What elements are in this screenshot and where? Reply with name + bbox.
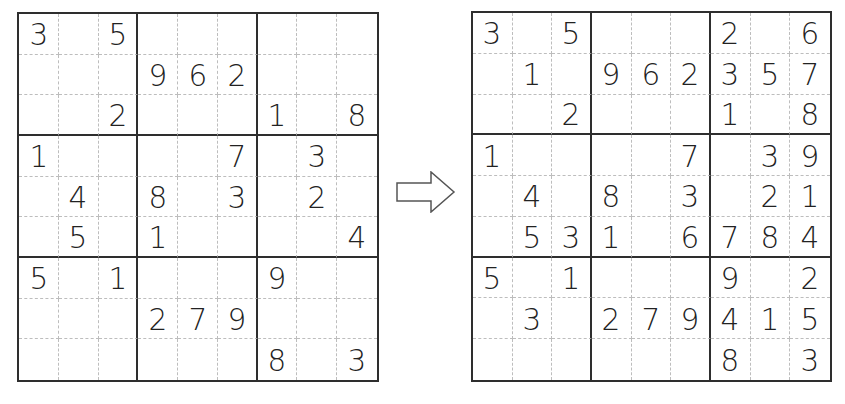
sudoku-cell-r4c8[interactable]: 3 — [751, 135, 791, 176]
sudoku-cell-r5c1[interactable] — [19, 177, 59, 218]
sudoku-cell-r7c2[interactable] — [513, 258, 553, 299]
sudoku-cell-r2c2[interactable] — [59, 55, 99, 96]
sudoku-cell-r4c6[interactable]: 7 — [671, 135, 711, 176]
sudoku-cell-r8c4[interactable]: 2 — [592, 298, 632, 339]
sudoku-cell-r9c9[interactable]: 3 — [337, 339, 377, 380]
sudoku-cell-r1c8[interactable] — [751, 13, 791, 54]
sudoku-cell-r4c9[interactable]: 9 — [790, 135, 830, 176]
sudoku-cell-r1c2[interactable] — [513, 13, 553, 54]
sudoku-cell-r3c1[interactable] — [473, 95, 513, 136]
sudoku-cell-r4c9[interactable] — [337, 136, 377, 177]
sudoku-cell-r3c3[interactable]: 2 — [552, 95, 592, 136]
sudoku-cell-r7c5[interactable] — [632, 258, 672, 299]
sudoku-cell-r6c7[interactable]: 7 — [711, 217, 751, 258]
sudoku-cell-r7c1[interactable]: 5 — [473, 258, 513, 299]
sudoku-cell-r8c3[interactable] — [552, 298, 592, 339]
sudoku-cell-r4c4[interactable] — [592, 135, 632, 176]
sudoku-cell-r9c3[interactable] — [99, 339, 139, 380]
sudoku-cell-r5c8[interactable]: 2 — [751, 176, 791, 217]
sudoku-cell-r8c5[interactable]: 7 — [178, 299, 218, 340]
sudoku-cell-r1c4[interactable] — [592, 13, 632, 54]
sudoku-cell-r9c1[interactable] — [19, 339, 59, 380]
sudoku-cell-r9c5[interactable] — [632, 339, 672, 380]
sudoku-cell-r4c1[interactable]: 1 — [473, 135, 513, 176]
sudoku-cell-r6c4[interactable]: 1 — [138, 217, 178, 258]
sudoku-cell-r7c4[interactable] — [138, 258, 178, 299]
sudoku-cell-r2c9[interactable]: 7 — [790, 54, 830, 95]
sudoku-cell-r6c5[interactable] — [178, 217, 218, 258]
sudoku-cell-r3c3[interactable]: 2 — [99, 95, 139, 136]
sudoku-cell-r2c5[interactable]: 6 — [178, 55, 218, 96]
sudoku-cell-r5c6[interactable]: 3 — [671, 176, 711, 217]
sudoku-cell-r5c5[interactable] — [178, 177, 218, 218]
sudoku-cell-r7c3[interactable]: 1 — [552, 258, 592, 299]
sudoku-cell-r5c9[interactable] — [337, 177, 377, 218]
sudoku-cell-r3c2[interactable] — [59, 95, 99, 136]
sudoku-cell-r2c4[interactable]: 9 — [138, 55, 178, 96]
sudoku-cell-r9c3[interactable] — [552, 339, 592, 380]
sudoku-cell-r1c6[interactable] — [218, 14, 258, 55]
sudoku-cell-r5c5[interactable] — [632, 176, 672, 217]
sudoku-cell-r4c2[interactable] — [513, 135, 553, 176]
sudoku-cell-r9c5[interactable] — [178, 339, 218, 380]
sudoku-cell-r1c9[interactable] — [337, 14, 377, 55]
sudoku-cell-r1c1[interactable]: 3 — [19, 14, 59, 55]
sudoku-cell-r9c2[interactable] — [513, 339, 553, 380]
sudoku-cell-r8c9[interactable]: 5 — [790, 298, 830, 339]
sudoku-cell-r9c8[interactable] — [297, 339, 337, 380]
sudoku-cell-r3c6[interactable] — [671, 95, 711, 136]
sudoku-cell-r8c1[interactable] — [473, 298, 513, 339]
sudoku-cell-r7c4[interactable] — [592, 258, 632, 299]
sudoku-cell-r4c5[interactable] — [632, 135, 672, 176]
sudoku-cell-r4c3[interactable] — [99, 136, 139, 177]
sudoku-cell-r1c5[interactable] — [178, 14, 218, 55]
sudoku-cell-r7c6[interactable] — [671, 258, 711, 299]
sudoku-cell-r3c8[interactable] — [751, 95, 791, 136]
sudoku-cell-r3c5[interactable] — [632, 95, 672, 136]
sudoku-cell-r7c7[interactable]: 9 — [258, 258, 298, 299]
sudoku-cell-r6c2[interactable]: 5 — [59, 217, 99, 258]
sudoku-cell-r6c3[interactable] — [99, 217, 139, 258]
sudoku-cell-r8c7[interactable] — [258, 299, 298, 340]
sudoku-cell-r3c2[interactable] — [513, 95, 553, 136]
sudoku-cell-r3c7[interactable]: 1 — [258, 95, 298, 136]
sudoku-cell-r4c8[interactable]: 3 — [297, 136, 337, 177]
sudoku-cell-r6c8[interactable] — [297, 217, 337, 258]
sudoku-cell-r1c3[interactable]: 5 — [552, 13, 592, 54]
sudoku-cell-r4c4[interactable] — [138, 136, 178, 177]
sudoku-cell-r4c7[interactable] — [711, 135, 751, 176]
sudoku-cell-r8c6[interactable]: 9 — [218, 299, 258, 340]
sudoku-cell-r9c2[interactable] — [59, 339, 99, 380]
sudoku-cell-r3c5[interactable] — [178, 95, 218, 136]
sudoku-cell-r4c5[interactable] — [178, 136, 218, 177]
sudoku-cell-r7c9[interactable]: 2 — [790, 258, 830, 299]
sudoku-cell-r3c4[interactable] — [592, 95, 632, 136]
sudoku-cell-r8c6[interactable]: 9 — [671, 298, 711, 339]
sudoku-cell-r7c6[interactable] — [218, 258, 258, 299]
sudoku-cell-r5c6[interactable]: 3 — [218, 177, 258, 218]
sudoku-cell-r1c2[interactable] — [59, 14, 99, 55]
sudoku-cell-r6c9[interactable]: 4 — [337, 217, 377, 258]
sudoku-cell-r2c9[interactable] — [337, 55, 377, 96]
sudoku-cell-r3c7[interactable]: 1 — [711, 95, 751, 136]
sudoku-cell-r7c2[interactable] — [59, 258, 99, 299]
sudoku-cell-r4c2[interactable] — [59, 136, 99, 177]
sudoku-cell-r6c6[interactable]: 6 — [671, 217, 711, 258]
sudoku-cell-r5c4[interactable]: 8 — [138, 177, 178, 218]
sudoku-cell-r8c1[interactable] — [19, 299, 59, 340]
sudoku-cell-r3c6[interactable] — [218, 95, 258, 136]
sudoku-cell-r4c6[interactable]: 7 — [218, 136, 258, 177]
sudoku-cell-r5c7[interactable] — [258, 177, 298, 218]
sudoku-cell-r8c8[interactable] — [297, 299, 337, 340]
sudoku-cell-r6c4[interactable]: 1 — [592, 217, 632, 258]
sudoku-cell-r6c1[interactable] — [19, 217, 59, 258]
sudoku-cell-r9c6[interactable] — [671, 339, 711, 380]
sudoku-cell-r5c3[interactable] — [552, 176, 592, 217]
sudoku-cell-r5c1[interactable] — [473, 176, 513, 217]
sudoku-cell-r9c7[interactable]: 8 — [258, 339, 298, 380]
sudoku-cell-r9c1[interactable] — [473, 339, 513, 380]
sudoku-cell-r8c7[interactable]: 4 — [711, 298, 751, 339]
sudoku-cell-r4c7[interactable] — [258, 136, 298, 177]
sudoku-cell-r5c2[interactable]: 4 — [513, 176, 553, 217]
sudoku-cell-r2c5[interactable]: 6 — [632, 54, 672, 95]
